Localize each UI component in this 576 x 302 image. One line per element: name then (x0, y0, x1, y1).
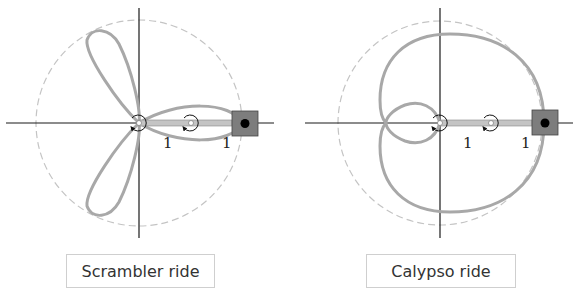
arm-length-label: 1 (463, 134, 473, 152)
caption-scrambler: Scrambler ride (66, 254, 215, 288)
pivot-center (137, 121, 142, 126)
arm-length-label: 1 (163, 134, 173, 152)
car-dot (541, 119, 550, 128)
arm (139, 120, 232, 126)
calypso-diagram (305, 8, 573, 238)
car-dot (241, 119, 250, 128)
scrambler-diagram (6, 8, 274, 238)
arm-length-label: 1 (222, 134, 232, 152)
pivot-mid (489, 121, 494, 126)
caption-calypso: Calypso ride (366, 254, 516, 288)
pivot-center (438, 121, 443, 126)
arm (440, 120, 532, 126)
arm-length-label: 1 (521, 134, 531, 152)
pivot-mid (189, 121, 194, 126)
